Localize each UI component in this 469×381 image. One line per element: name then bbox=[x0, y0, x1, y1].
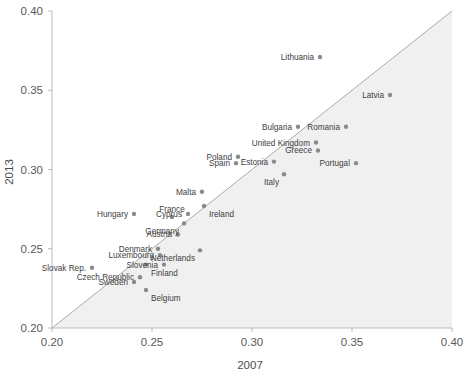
y-axis-ticks: 0.200.250.300.350.40 bbox=[21, 5, 52, 334]
data-point-label: Latvia bbox=[362, 91, 384, 100]
data-point bbox=[354, 161, 358, 165]
data-point bbox=[344, 125, 348, 129]
data-point bbox=[388, 93, 392, 97]
data-point-label: Belgium bbox=[151, 294, 181, 303]
data-point-label: Estonia bbox=[241, 158, 269, 167]
data-point bbox=[156, 247, 160, 251]
data-point bbox=[282, 172, 286, 176]
data-point-label: Austria bbox=[147, 230, 173, 239]
x-tick-label: 0.40 bbox=[441, 336, 463, 348]
y-tick-label: 0.40 bbox=[21, 5, 43, 17]
data-point bbox=[200, 189, 204, 193]
data-point-label: Greece bbox=[285, 146, 312, 155]
data-point bbox=[132, 212, 136, 216]
data-point-label: Sweden bbox=[98, 278, 128, 287]
data-point bbox=[272, 159, 276, 163]
data-point-label: Spain bbox=[209, 159, 230, 168]
chart-canvas: 0.200.250.300.350.40 0.200.250.300.350.4… bbox=[0, 0, 469, 381]
x-tick-label: 0.30 bbox=[241, 336, 263, 348]
data-point bbox=[314, 140, 318, 144]
x-tick-label: 0.35 bbox=[341, 336, 363, 348]
y-tick-label: 0.25 bbox=[21, 243, 43, 255]
data-point bbox=[296, 125, 300, 129]
data-point-label: Portugal bbox=[320, 159, 351, 168]
x-tick-label: 0.25 bbox=[141, 336, 163, 348]
data-point bbox=[138, 275, 142, 279]
x-axis-ticks: 0.200.250.300.350.40 bbox=[41, 328, 463, 348]
data-point-label: Hungary bbox=[97, 210, 129, 219]
y-tick-label: 0.20 bbox=[21, 322, 43, 334]
y-tick-label: 0.35 bbox=[21, 84, 43, 96]
x-axis-title: 2007 bbox=[237, 359, 263, 371]
data-point-label: Lithuania bbox=[281, 53, 315, 62]
data-point bbox=[186, 212, 190, 216]
data-point-label: Cyprus bbox=[156, 210, 182, 219]
data-point-label: Ireland bbox=[209, 210, 234, 219]
data-point bbox=[90, 266, 94, 270]
data-point bbox=[144, 288, 148, 292]
data-point-label: Bulgaria bbox=[262, 123, 292, 132]
data-point-label: Italy bbox=[264, 178, 280, 187]
data-point-label: Luxembourg bbox=[108, 251, 154, 260]
data-point bbox=[182, 221, 186, 225]
x-tick-label: 0.20 bbox=[41, 336, 63, 348]
data-point bbox=[202, 204, 206, 208]
data-point-label: Slovak Rep. bbox=[42, 264, 86, 273]
data-point bbox=[318, 55, 322, 59]
data-point bbox=[236, 155, 240, 159]
data-point bbox=[316, 148, 320, 152]
y-axis-title: 2013 bbox=[3, 159, 15, 185]
data-point-label: Romania bbox=[307, 123, 340, 132]
data-point-label: Finland bbox=[151, 269, 178, 278]
data-point bbox=[198, 248, 202, 252]
data-point-label: Malta bbox=[176, 188, 196, 197]
data-point bbox=[234, 161, 238, 165]
y-tick-label: 0.30 bbox=[21, 164, 43, 176]
scatter-chart: 0.200.250.300.350.40 0.200.250.300.350.4… bbox=[0, 0, 469, 381]
